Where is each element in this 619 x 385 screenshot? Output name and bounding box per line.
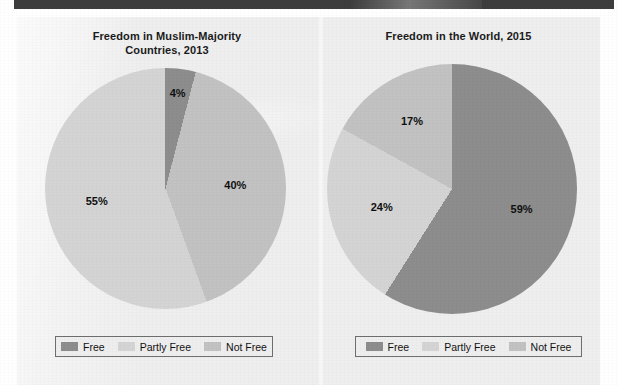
legend-right: Free Partly Free Not Free bbox=[355, 336, 582, 357]
pie-label-right-free: 59% bbox=[511, 203, 533, 215]
pie-slices-left bbox=[45, 68, 286, 309]
legend-label-partly-free-right: Partly Free bbox=[444, 341, 495, 353]
legend-label-not-free-right: Not Free bbox=[531, 341, 572, 353]
legend-label-free-left: Free bbox=[83, 341, 105, 353]
legend-label-not-free-left: Not Free bbox=[226, 341, 267, 353]
pie-label-left-free: 4% bbox=[170, 87, 186, 99]
legend-swatch-not-free-icon bbox=[204, 342, 221, 351]
legend-item-partly-free-right: Partly Free bbox=[422, 341, 495, 353]
pie-label-right-not-free: 17% bbox=[401, 115, 423, 127]
legend-swatch-free-icon bbox=[366, 342, 383, 351]
legend-swatch-not-free-icon bbox=[509, 342, 526, 351]
legend-swatch-partly-free-icon bbox=[118, 342, 135, 351]
chart-title-right-line1: Freedom in the World, 2015 bbox=[317, 29, 600, 43]
legend-item-not-free-left: Not Free bbox=[204, 341, 267, 353]
legend-left: Free Partly Free Not Free bbox=[55, 336, 273, 357]
legend-label-free-right: Free bbox=[388, 341, 410, 353]
legend-item-free-left: Free bbox=[61, 341, 105, 353]
page-top-dark-band bbox=[14, 0, 614, 9]
legend-swatch-free-icon bbox=[61, 342, 78, 351]
pie-slices-right bbox=[327, 64, 577, 314]
scanned-page-image: Freedom in Muslim-Majority Countries, 20… bbox=[0, 0, 619, 385]
legend-swatch-partly-free-icon bbox=[422, 342, 439, 351]
chart-panel-world-2015: Freedom in the World, 2015 59% 24% 17% F… bbox=[317, 17, 600, 385]
chart-title-left-line1: Freedom in Muslim-Majority bbox=[17, 29, 317, 43]
legend-item-partly-free-left: Partly Free bbox=[118, 341, 191, 353]
legend-item-not-free-right: Not Free bbox=[509, 341, 572, 353]
chart-title-right: Freedom in the World, 2015 bbox=[317, 29, 600, 43]
chart-title-left: Freedom in Muslim-Majority Countries, 20… bbox=[17, 29, 317, 57]
chart-panel-muslim-majority-2013: Freedom in Muslim-Majority Countries, 20… bbox=[17, 17, 317, 385]
pie-label-right-partly-free: 24% bbox=[371, 201, 393, 213]
legend-item-free-right: Free bbox=[366, 341, 410, 353]
legend-label-partly-free-left: Partly Free bbox=[140, 341, 191, 353]
pie-label-left-not-free: 55% bbox=[86, 195, 108, 207]
pie-label-left-partly-free: 40% bbox=[224, 179, 246, 191]
chart-title-left-line2: Countries, 2013 bbox=[17, 43, 317, 57]
